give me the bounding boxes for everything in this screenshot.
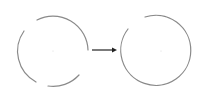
arc-main <box>121 15 191 85</box>
arc-bottom <box>48 75 79 86</box>
arrowhead-icon <box>112 48 117 53</box>
arc-left <box>18 31 36 82</box>
center-dot <box>52 50 53 51</box>
closed-circle <box>121 15 191 85</box>
broken-circle <box>18 16 88 86</box>
center-dot <box>160 50 161 51</box>
transform-arrow <box>92 48 117 53</box>
arc-top-right <box>37 16 88 50</box>
diagram-canvas <box>0 0 209 93</box>
